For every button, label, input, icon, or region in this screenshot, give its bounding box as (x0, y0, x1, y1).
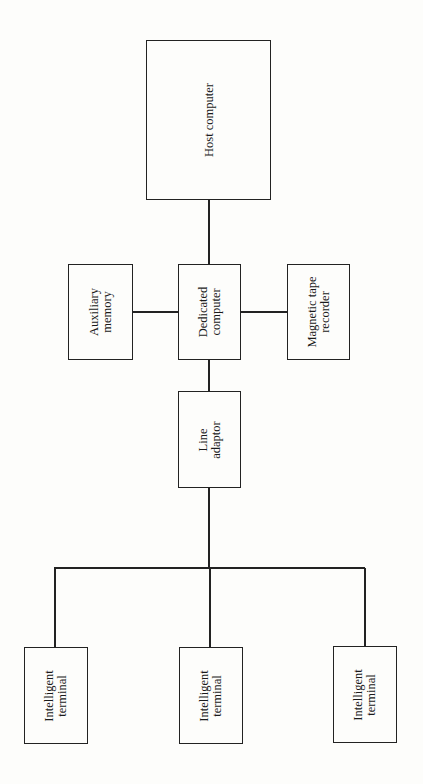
intelligent-terminal-1-label: Intelligent terminal (43, 670, 69, 721)
intelligent-terminal-3-label: Intelligent terminal (352, 669, 378, 720)
host-computer-label: Host computer (202, 83, 215, 157)
host-computer-box: Host computer (146, 40, 271, 200)
auxiliary-memory-label: Auxiliary memory (88, 288, 114, 336)
intelligent-terminal-2-label: Intelligent terminal (198, 670, 224, 721)
connector-bus-terminal-3 (364, 568, 366, 646)
dedicated-computer-label-line-1: Dedicated (197, 287, 210, 338)
auxiliary-memory-label-line-2: memory (101, 288, 114, 336)
connector-aux-dedicated (133, 311, 178, 313)
dedicated-computer-label: Dedicated computer (197, 287, 223, 338)
dedicated-computer-box: Dedicated computer (178, 264, 241, 360)
magnetic-tape-recorder-label: Magnetic tape recorder (306, 276, 332, 347)
line-adaptor-label-line-2: adaptor (210, 421, 223, 458)
intelligent-terminal-3-box: Intelligent terminal (333, 646, 397, 743)
intelligent-terminal-3-label-line-2: terminal (365, 669, 378, 720)
connector-bus-terminal-2 (209, 568, 211, 647)
connector-adaptor-bus (208, 488, 210, 569)
connector-bus-terminal-1 (54, 568, 56, 647)
connector-host-dedicated (208, 200, 210, 264)
connector-dedicated-adaptor (208, 360, 210, 391)
auxiliary-memory-label-line-1: Auxiliary (88, 288, 101, 336)
magnetic-tape-recorder-box: Magnetic tape recorder (287, 264, 350, 360)
intelligent-terminal-1-box: Intelligent terminal (24, 647, 88, 744)
line-adaptor-label: Line adaptor (197, 421, 223, 458)
line-adaptor-box: Line adaptor (178, 391, 241, 488)
intelligent-terminal-2-box: Intelligent terminal (179, 647, 243, 744)
host-computer-label-line-1: Host computer (202, 83, 215, 157)
connector-dedicated-tape (241, 311, 287, 313)
auxiliary-memory-box: Auxiliary memory (68, 264, 133, 360)
line-adaptor-label-line-1: Line (197, 421, 210, 458)
magnetic-tape-recorder-label-line-2: recorder (319, 276, 332, 347)
diagram-canvas: Host computer Auxiliary memory Dedicated… (0, 0, 423, 784)
intelligent-terminal-2-label-line-2: terminal (211, 670, 224, 721)
magnetic-tape-recorder-label-line-1: Magnetic tape (306, 276, 319, 347)
intelligent-terminal-1-label-line-2: terminal (56, 670, 69, 721)
dedicated-computer-label-line-2: computer (210, 287, 223, 338)
